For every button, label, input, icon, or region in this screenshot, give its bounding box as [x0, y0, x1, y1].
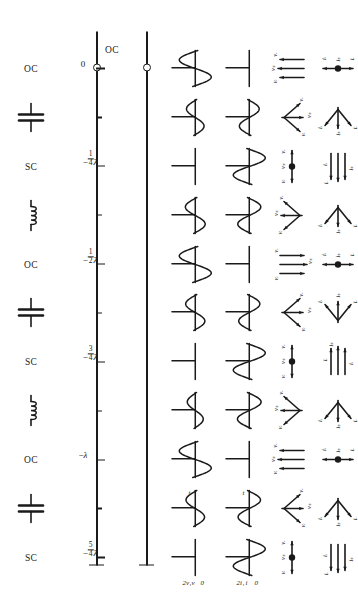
axis-endcap-lower	[139, 564, 154, 565]
equivalent-circuit-cell: OC	[14, 441, 48, 477]
current-standing-wave-cell	[222, 537, 266, 577]
svg-text:iᵢ: iᵢ	[316, 125, 323, 128]
svg-text:vᵣ: vᵣ	[297, 487, 304, 492]
current-phasor-cell: iᵢiₛiᵣ	[318, 191, 358, 239]
svg-text:vₛ: vₛ	[269, 456, 276, 462]
voltage-standing-wave-cell	[168, 97, 212, 137]
capacitor-icon	[13, 100, 49, 134]
svg-text:vᵢ: vᵢ	[271, 470, 278, 474]
svg-text:vᵢ: vᵢ	[299, 328, 306, 332]
voltage-standing-wave-cell	[168, 48, 212, 88]
voltage-standing-wave-cell	[168, 244, 212, 284]
voltage-phasor-cell: vᵢvₛvᵣ	[272, 435, 312, 483]
svg-text:iᵣ: iᵣ	[351, 516, 358, 520]
current-phasor-cell: iᵢiₛiᵣ	[318, 44, 358, 92]
axis-tick	[96, 214, 102, 215]
current-phasor-cell: iᵢiₛiᵣ	[318, 93, 358, 141]
current-standing-wave-cell	[222, 341, 266, 381]
svg-text:iₛ: iₛ	[347, 165, 354, 170]
svg-text:iₛ: iₛ	[334, 228, 341, 233]
svg-text:iᵣ: iᵣ	[321, 357, 328, 361]
svg-text:iᵣ: iᵣ	[351, 418, 358, 422]
inductor-icon	[13, 393, 49, 427]
axis-tick-label: −14λ	[83, 150, 98, 166]
voltage-axis-peak-label: 2v₁	[183, 580, 192, 587]
voltage-standing-wave-cell	[168, 146, 212, 186]
open-circuit-label: OC	[24, 454, 38, 464]
current-phasor-cell: iᵢiₛiᵣ	[318, 484, 358, 532]
equivalent-circuit-cell: SC	[14, 539, 48, 575]
svg-text:vₛ: vₛ	[306, 257, 313, 263]
voltage-standing-wave-cell	[168, 341, 212, 381]
svg-text:iᵢ: iᵢ	[347, 362, 354, 365]
svg-text:vᵢ: vᵢ	[276, 425, 283, 429]
svg-text:iₛ: iₛ	[327, 341, 334, 346]
voltage-phasor-cell: vᵢvₛvᵣ	[272, 484, 312, 532]
svg-text:vₛ: vₛ	[272, 405, 279, 411]
line-conductor-lower	[146, 31, 148, 565]
svg-text:iₛ: iₛ	[334, 252, 341, 257]
svg-text:vₛ: vₛ	[305, 503, 312, 509]
svg-text:vᵢ: vᵢ	[279, 374, 286, 378]
capacitor-icon	[13, 296, 49, 330]
short-circuit-label: SC	[25, 161, 37, 171]
current-phasor-cell: iᵣiᵢiₛ	[318, 533, 358, 581]
axis-tick	[96, 312, 102, 313]
svg-text:vᵣ: vᵣ	[279, 539, 286, 544]
svg-text:vᵣ: vᵣ	[279, 344, 286, 349]
svg-text:vᵢ: vᵢ	[299, 523, 306, 527]
svg-text:vᵣ: vᵣ	[297, 96, 304, 101]
svg-text:iᵣ: iᵣ	[348, 56, 355, 60]
svg-text:vₛ: vₛ	[305, 307, 312, 313]
current-phasor-cell: iᵣiᵢiₛ	[318, 142, 358, 190]
voltage-phasor-cell: vᵢvₛvᵣ	[272, 240, 312, 288]
svg-text:iᵢ: iᵢ	[316, 517, 323, 520]
svg-text:iₛ: iₛ	[334, 447, 341, 452]
svg-text:iᵣ: iᵣ	[351, 125, 358, 129]
svg-text:vᵢ: vᵢ	[299, 132, 306, 136]
equivalent-circuit-cell	[14, 295, 48, 331]
svg-text:iₛ: iₛ	[347, 556, 354, 561]
voltage-phasor-cell: vᵢvₛvᵣ	[272, 191, 312, 239]
voltage-standing-wave-cell	[168, 537, 212, 577]
equivalent-circuit-cell: OC	[14, 50, 48, 86]
svg-text:vᵢ: vᵢ	[279, 570, 286, 574]
inductor-icon	[13, 198, 49, 232]
svg-text:iₛ: iₛ	[334, 293, 341, 298]
svg-text:vᵣ: vᵣ	[297, 292, 304, 297]
svg-text:vᵢ: vᵢ	[271, 79, 278, 83]
current-standing-wave-cell	[222, 195, 266, 235]
voltage-axis-zero-label: 0	[201, 580, 205, 587]
svg-text:iᵢ: iᵢ	[321, 554, 328, 557]
current-axis-zero-label: 0	[255, 580, 259, 587]
open-circuit-label: OC	[24, 63, 38, 73]
svg-text:iᵢ: iᵢ	[321, 162, 328, 165]
source-terminal-oc-label: OC	[105, 44, 119, 54]
svg-text:iᵣ: iᵣ	[351, 223, 358, 227]
current-axis-variable-label: i	[246, 580, 248, 587]
voltage-standing-wave-cell	[168, 439, 212, 479]
equivalent-circuit-cell	[14, 392, 48, 428]
current-standing-wave-cell	[222, 244, 266, 284]
current-standing-wave-cell	[222, 390, 266, 430]
svg-text:iᵣ: iᵣ	[351, 299, 358, 303]
axis-tick-label: 0	[81, 59, 86, 68]
capacitor-icon	[13, 491, 49, 525]
equivalent-circuit-cell: SC	[14, 343, 48, 379]
current-standing-wave-cell	[222, 293, 266, 333]
voltage-phasor-cell: vᵢvₛvᵣ	[272, 533, 312, 581]
voltage-standing-wave-cell	[168, 390, 212, 430]
voltage-axis-variable-label: v	[192, 580, 195, 587]
svg-text:iᵢ: iᵢ	[316, 223, 323, 226]
voltage-phasor-cell: vᵢvₛvᵣ	[272, 386, 312, 434]
axis-tick-label: −34λ	[83, 345, 98, 361]
svg-text:vᵣ: vᵣ	[272, 247, 279, 252]
voltage-standing-wave-cell	[168, 293, 212, 333]
short-circuit-label: SC	[25, 356, 37, 366]
current-phasor-cell: iᵢiₛiᵣ	[318, 289, 358, 337]
voltage-phasor-cell: vᵢvₛvᵣ	[272, 142, 312, 190]
svg-text:iᵣ: iᵣ	[348, 252, 355, 256]
svg-text:vₛ: vₛ	[305, 111, 312, 117]
axis-endcap-upper	[89, 564, 104, 565]
